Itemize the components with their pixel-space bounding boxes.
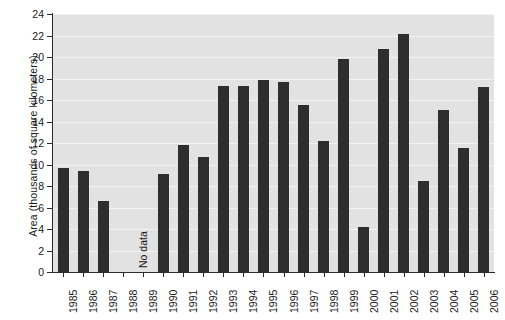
x-tick-label-2006: 2006 (489, 290, 500, 313)
y-tick-mark (47, 14, 52, 15)
gridline (53, 36, 494, 37)
bar-1996 (278, 82, 289, 272)
x-tick-label-1991: 1991 (188, 290, 199, 313)
x-tick-label-1998: 1998 (329, 290, 340, 313)
x-tick-mark (424, 272, 425, 277)
bar-2001 (378, 49, 389, 272)
x-tick-label-2002: 2002 (409, 290, 420, 313)
y-tick-mark (47, 57, 52, 58)
x-tick-mark (444, 272, 445, 277)
gridline (53, 122, 494, 123)
bar-1998 (318, 141, 329, 272)
x-tick-mark (344, 272, 345, 277)
x-tick-label-1992: 1992 (208, 290, 219, 313)
y-tick-label: 16 (0, 95, 44, 106)
gridline (53, 143, 494, 144)
x-tick-mark (364, 272, 365, 277)
bar-1997 (298, 105, 309, 272)
y-tick-label: 8 (0, 181, 44, 192)
x-tick-label-1996: 1996 (289, 290, 300, 313)
y-tick-mark (47, 229, 52, 230)
y-tick-label: 22 (0, 31, 44, 42)
gridline (53, 165, 494, 166)
y-axis-line (52, 13, 53, 273)
y-tick-mark (47, 79, 52, 80)
x-tick-label-2000: 2000 (369, 290, 380, 313)
x-tick-label-1999: 1999 (349, 290, 360, 313)
x-tick-mark (163, 272, 164, 277)
x-tick-label-2001: 2001 (389, 290, 400, 313)
bar-1994 (238, 86, 249, 272)
x-tick-label-1988: 1988 (128, 290, 139, 313)
y-tick-label: 6 (0, 203, 44, 214)
x-tick-mark (203, 272, 204, 277)
y-tick-mark (47, 251, 52, 252)
x-tick-label-2004: 2004 (449, 290, 460, 313)
y-tick-label: 10 (0, 160, 44, 171)
y-tick-mark (47, 208, 52, 209)
y-tick-mark (47, 122, 52, 123)
bar-2006 (478, 87, 489, 272)
x-tick-label-1987: 1987 (108, 290, 119, 313)
x-tick-mark (404, 272, 405, 277)
y-tick-label: 12 (0, 138, 44, 149)
x-tick-label-2005: 2005 (469, 290, 480, 313)
y-tick-label: 18 (0, 74, 44, 85)
x-tick-label-1995: 1995 (268, 290, 279, 313)
y-tick-mark (47, 36, 52, 37)
y-tick-label: 2 (0, 246, 44, 257)
bar-1986 (78, 171, 89, 272)
x-tick-mark (63, 272, 64, 277)
x-tick-label-1985: 1985 (68, 290, 79, 313)
x-tick-label-1989: 1989 (148, 290, 159, 313)
x-tick-mark (484, 272, 485, 277)
gridline (53, 100, 494, 101)
y-tick-mark (47, 186, 52, 187)
bar-2002 (398, 34, 409, 272)
x-tick-mark (284, 272, 285, 277)
bar-1992 (198, 157, 209, 272)
bar-1990 (158, 174, 169, 272)
bar-2000 (358, 227, 369, 272)
y-tick-label: 4 (0, 224, 44, 235)
y-tick-label: 24 (0, 9, 44, 20)
bar-2005 (458, 148, 469, 272)
x-tick-mark (103, 272, 104, 277)
x-tick-label-1986: 1986 (88, 290, 99, 313)
bar-1995 (258, 80, 269, 272)
y-tick-label: 14 (0, 117, 44, 128)
x-tick-label-1993: 1993 (228, 290, 239, 313)
x-tick-label-1994: 1994 (248, 290, 259, 313)
x-tick-mark (304, 272, 305, 277)
x-tick-mark (143, 272, 144, 277)
y-tick-mark (47, 143, 52, 144)
y-tick-mark (47, 165, 52, 166)
gridline (53, 57, 494, 58)
x-tick-mark (243, 272, 244, 277)
gridline (53, 79, 494, 80)
x-tick-label-1997: 1997 (309, 290, 320, 313)
x-tick-mark (464, 272, 465, 277)
y-tick-mark (47, 100, 52, 101)
y-tick-mark (47, 272, 52, 273)
x-axis-line (52, 272, 495, 273)
bar-2004 (438, 110, 449, 272)
gridline (53, 14, 494, 15)
y-tick-label: 0 (0, 267, 44, 278)
bar-1985 (58, 168, 69, 272)
x-tick-mark (324, 272, 325, 277)
x-tick-mark (123, 272, 124, 277)
bar-1999 (338, 59, 349, 272)
x-tick-mark (223, 272, 224, 277)
bar-1993 (218, 86, 229, 272)
x-tick-mark (263, 272, 264, 277)
x-tick-mark (83, 272, 84, 277)
x-tick-mark (384, 272, 385, 277)
x-tick-mark (183, 272, 184, 277)
x-tick-label-2003: 2003 (429, 290, 440, 313)
bar-1987 (98, 201, 109, 272)
bar-2003 (418, 181, 429, 272)
no-data-annotation: No data (138, 231, 149, 268)
bar-1991 (178, 145, 189, 272)
x-tick-label-1990: 1990 (168, 290, 179, 313)
